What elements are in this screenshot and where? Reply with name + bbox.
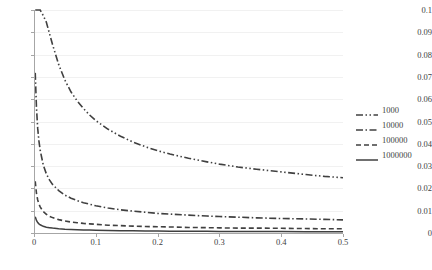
x-tick-mark (158, 234, 159, 237)
legend-swatch-icon (356, 106, 378, 116)
x-tick-mark (281, 234, 282, 237)
y-axis-line (34, 10, 35, 234)
x-tick-label: 0.4 (266, 238, 296, 247)
legend-item-10000[interactable]: 10000 (356, 118, 432, 133)
y-tick-mark (31, 55, 34, 56)
series-line-100000 (35, 181, 343, 229)
x-tick-mark (96, 234, 97, 237)
series-line-10000 (35, 73, 343, 220)
y-tick-mark (31, 144, 34, 145)
legend-item-1000000[interactable]: 1000000 (356, 148, 432, 163)
legend-swatch-icon (356, 121, 378, 131)
x-tick-mark (343, 234, 344, 237)
y-tick-label: 0 (402, 229, 432, 238)
x-tick-label: 0.2 (143, 238, 173, 247)
y-tick-label: 0.03 (402, 162, 432, 171)
series-line-1000 (35, 10, 343, 178)
y-tick-label: 0.1 (402, 6, 432, 15)
plot-area (34, 10, 343, 233)
y-tick-label: 0.02 (402, 184, 432, 193)
y-tick-mark (31, 188, 34, 189)
legend-label: 10000 (382, 121, 403, 130)
y-tick-mark (31, 77, 34, 78)
x-tick-mark (219, 234, 220, 237)
y-tick-mark (31, 10, 34, 11)
x-tick-label: 0 (19, 238, 49, 247)
chart-container: 00.010.020.030.040.050.060.070.080.090.1… (0, 0, 432, 270)
x-tick-label: 0.5 (328, 238, 358, 247)
legend-swatch-icon (356, 151, 378, 161)
curve-layer (34, 10, 343, 233)
legend-label: 100000 (382, 136, 408, 145)
x-tick-label: 0.1 (81, 238, 111, 247)
y-tick-mark (31, 32, 34, 33)
legend-label: 1000 (382, 106, 399, 115)
y-tick-mark (31, 122, 34, 123)
y-tick-mark (31, 211, 34, 212)
y-tick-mark (31, 166, 34, 167)
legend-label: 1000000 (382, 151, 412, 160)
y-tick-label: 0.01 (402, 207, 432, 216)
legend-swatch-icon (356, 136, 378, 146)
y-tick-label: 0.07 (402, 73, 432, 82)
legend-item-1000[interactable]: 1000 (356, 103, 432, 118)
legend-item-100000[interactable]: 100000 (356, 133, 432, 148)
x-tick-label: 0.3 (204, 238, 234, 247)
y-tick-label: 0.08 (402, 51, 432, 60)
y-tick-label: 0.09 (402, 28, 432, 37)
legend: 1000100001000001000000 (356, 103, 432, 163)
y-tick-mark (31, 99, 34, 100)
x-axis-line (34, 233, 343, 234)
x-tick-mark (34, 234, 35, 237)
